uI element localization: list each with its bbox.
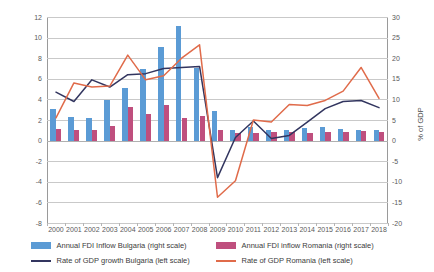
- x-axis-tick-mark: [209, 223, 210, 226]
- y-axis-right-tick-label: -20: [392, 220, 418, 227]
- y-axis-right-tick-label: 20: [392, 55, 418, 62]
- x-axis-tick-label: 2015: [317, 226, 333, 234]
- x-axis-tick-label: 2010: [228, 226, 244, 234]
- y-axis-right-tick-label: 5: [392, 117, 418, 124]
- legend-row-2: Rate of GDP growth Bulgaria (left scale)…: [0, 253, 434, 268]
- x-axis-tick-label: 2009: [210, 226, 226, 234]
- gridline: [47, 223, 388, 224]
- legend-swatch-bar-icon: [31, 242, 51, 249]
- x-axis-tick-mark: [352, 223, 353, 226]
- x-axis-tick-mark: [388, 223, 389, 226]
- fdi-gdp-chart: 121086420-2-4-6-8 302520151050-5-10-15-2…: [0, 0, 434, 272]
- y-axis-left-tick-label: -4: [18, 178, 42, 185]
- x-axis-tick-label: 2001: [66, 226, 82, 234]
- x-axis-tick-mark: [226, 223, 227, 226]
- legend-row-1: Annual FDI Inflow Bulgaria (right scale)…: [0, 238, 434, 253]
- lines-layer: [47, 17, 388, 223]
- x-axis-tick-mark: [65, 223, 66, 226]
- x-axis-tick-mark: [155, 223, 156, 226]
- x-axis-tick-label: 2011: [246, 226, 261, 234]
- legend-swatch-line-icon: [31, 260, 51, 262]
- y-axis-left-tick-label: 6: [18, 75, 42, 82]
- y-axis-right-tick-label: -10: [392, 178, 418, 185]
- x-axis-tick-mark: [262, 223, 263, 226]
- x-axis-tick-mark: [316, 223, 317, 226]
- y-axis-right-tick-label: -5: [392, 158, 418, 165]
- x-axis-tick-mark: [119, 223, 120, 226]
- x-axis-tick-label: 2003: [102, 226, 118, 234]
- x-axis-tick-mark: [334, 223, 335, 226]
- legend-swatch-line-icon: [216, 260, 236, 262]
- legend-item-fdi-bulgaria: Annual FDI Inflow Bulgaria (right scale): [31, 241, 216, 250]
- y-axis-right-tick-label: 15: [392, 75, 418, 82]
- x-axis-tick-mark: [137, 223, 138, 226]
- x-axis-tick-mark: [298, 223, 299, 226]
- y-axis-left-tick-label: -6: [18, 199, 42, 206]
- legend-item-gdp-bulgaria: Rate of GDP growth Bulgaria (left scale): [31, 256, 216, 265]
- x-axis-tick-label: 2007: [174, 226, 190, 234]
- y-axis-right-tick-label: 0: [392, 137, 418, 144]
- x-axis-tick-label: 2008: [192, 226, 208, 234]
- x-axis-tick-mark: [83, 223, 84, 226]
- x-axis-tick-label: 2017: [353, 226, 369, 234]
- legend-label: Annual FDI inflow Romania (right scale): [242, 241, 374, 250]
- x-axis-tick-mark: [244, 223, 245, 226]
- legend-label: Rate of GDP Romania (left scale): [242, 256, 353, 265]
- legend-label: Rate of GDP growth Bulgaria (left scale): [57, 256, 190, 265]
- y-axis-left-tick-label: 10: [18, 34, 42, 41]
- x-axis-tick-mark: [191, 223, 192, 226]
- x-axis-tick-mark: [280, 223, 281, 226]
- y-axis-right-tick-label: 30: [392, 14, 418, 21]
- y-axis-left-tick-label: -8: [18, 220, 42, 227]
- y-axis-right-title: % of GDP: [416, 107, 425, 140]
- x-axis-tick-label: 2002: [84, 226, 100, 234]
- legend-item-fdi-romania: Annual FDI inflow Romania (right scale): [216, 241, 404, 250]
- x-axis-tick-mark: [173, 223, 174, 226]
- x-axis-tick-label: 2004: [120, 226, 136, 234]
- x-axis-tick-mark: [47, 223, 48, 226]
- x-axis-tick-mark: [370, 223, 371, 226]
- x-axis-tick-label: 2013: [281, 226, 297, 234]
- x-axis-tick-label: 2000: [48, 226, 64, 234]
- x-axis-tick-label: 2012: [264, 226, 280, 234]
- plot-area: [47, 17, 388, 223]
- y-axis-left-tick-label: -2: [18, 158, 42, 165]
- legend-item-gdp-romania: Rate of GDP Romania (left scale): [216, 256, 404, 265]
- legend-swatch-bar-icon: [216, 242, 236, 249]
- legend-label: Annual FDI Inflow Bulgaria (right scale): [57, 241, 187, 250]
- y-axis-right-tick-label: -15: [392, 199, 418, 206]
- y-axis-left-tick-label: 2: [18, 117, 42, 124]
- legend: Annual FDI Inflow Bulgaria (right scale)…: [0, 238, 434, 268]
- x-axis-tick-label: 2005: [138, 226, 154, 234]
- x-axis-tick-label: 2016: [335, 226, 351, 234]
- line-series: [56, 66, 379, 177]
- y-axis-right-tick-label: 25: [392, 34, 418, 41]
- y-axis-left-tick-label: 4: [18, 96, 42, 103]
- x-axis-tick-label: 2018: [371, 226, 387, 234]
- y-axis-right-tick-label: 10: [392, 96, 418, 103]
- x-axis-tick-label: 2014: [299, 226, 315, 234]
- y-axis-left-tick-label: 12: [18, 14, 42, 21]
- y-axis-left-tick-label: 8: [18, 55, 42, 62]
- x-axis-tick-mark: [101, 223, 102, 226]
- y-axis-left-tick-label: 0: [18, 137, 42, 144]
- x-axis-tick-label: 2006: [156, 226, 172, 234]
